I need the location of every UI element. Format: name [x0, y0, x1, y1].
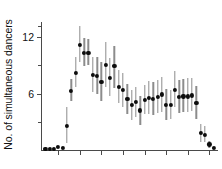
plot-area: 612: [41, 22, 218, 150]
data-point: [73, 71, 77, 75]
data-point: [108, 75, 112, 79]
data-point: [125, 97, 129, 101]
y-tick-minor: [38, 65, 41, 66]
x-tick: [58, 151, 59, 155]
data-point: [203, 133, 207, 137]
y-tick-minor: [38, 26, 41, 27]
x-axis-spine: [41, 150, 218, 151]
data-point: [95, 74, 99, 78]
y-axis-spine: [41, 22, 42, 151]
x-tick: [80, 151, 81, 155]
data-point: [155, 95, 159, 99]
y-tick-minor: [38, 122, 41, 123]
y-tick-label: 6: [28, 88, 34, 100]
data-point: [134, 100, 138, 104]
y-axis-label: No. of simultaneous dancers: [0, 0, 16, 169]
data-point: [130, 103, 134, 107]
data-point: [65, 123, 69, 127]
data-point: [138, 108, 142, 112]
y-tick-12: 12: [37, 37, 41, 38]
x-tick: [101, 151, 102, 155]
x-tick: [123, 151, 124, 155]
x-tick: [166, 151, 167, 155]
data-point: [121, 88, 125, 92]
y-tick-label: 12: [22, 31, 34, 43]
data-point: [190, 93, 194, 97]
x-tick: [188, 151, 189, 155]
data-point: [160, 92, 164, 96]
data-point: [112, 64, 116, 68]
data-point: [78, 42, 82, 46]
data-point: [168, 103, 172, 107]
x-tick: [209, 151, 210, 155]
data-point: [194, 101, 198, 105]
data-point: [173, 88, 177, 92]
data-point: [207, 142, 211, 146]
x-tick: [145, 151, 146, 155]
data-point: [86, 51, 90, 55]
data-point: [104, 63, 108, 67]
data-point: [69, 89, 73, 93]
chart-figure: No. of simultaneous dancers 612: [0, 0, 222, 169]
y-tick-6: 6: [37, 94, 41, 95]
data-point: [99, 80, 103, 84]
